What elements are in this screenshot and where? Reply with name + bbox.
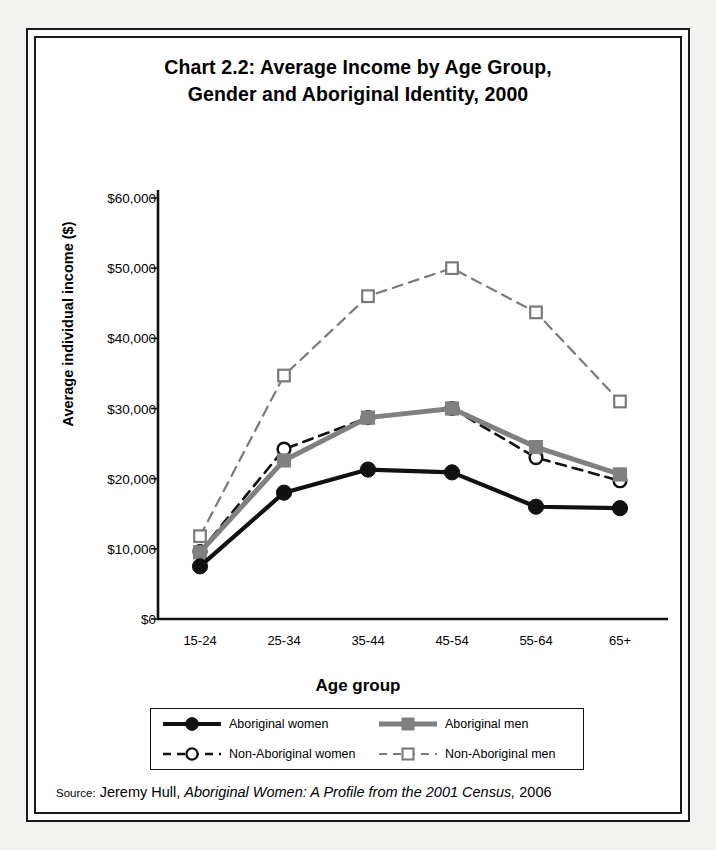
legend-item[interactable]: Non-Aboriginal men [367,745,583,763]
series-data-point [529,440,542,453]
x-axis-tick-label: 15-24 [183,633,216,648]
series-data-point [360,462,375,477]
x-axis-tick-label: 65+ [609,633,631,648]
legend-item[interactable]: Non-Aboriginal women [151,745,367,763]
series-data-point [613,468,626,481]
series-data-point [194,530,206,542]
series-data-point [614,396,626,408]
series-data-point [445,402,458,415]
legend-key-icon [377,745,439,763]
series-data-point [193,546,206,559]
chart-series [194,262,626,542]
series-data-point [528,499,543,514]
chart-title-line-1: Chart 2.2: Average Income by Age Group, [34,54,682,81]
source-label: Source: [56,787,96,799]
series-data-point [446,262,458,274]
x-axis-tick-label: 55-64 [519,633,552,648]
chart-title: Chart 2.2: Average Income by Age Group, … [34,54,682,108]
plot-area-wrapper: Average individual income ($) $60,000$50… [34,128,682,648]
legend-key-icon [377,715,439,733]
chart-figure: Chart 2.2: Average Income by Age Group, … [34,36,682,814]
source-author: Jeremy Hull, [100,784,181,800]
legend-label: Non-Aboriginal men [445,747,555,761]
chart-legend: Aboriginal womenAboriginal menNon-Aborig… [150,708,584,770]
legend-key-icon [161,715,223,733]
axis-lines [158,190,668,619]
series-data-point [612,501,627,516]
chart-title-line-2: Gender and Aboriginal Identity, 2000 [34,81,682,108]
series-data-point [530,307,542,319]
legend-key-icon [161,745,223,763]
x-axis-title: Age group [34,676,682,696]
x-axis-tick-label: 45-54 [435,633,468,648]
series-data-point [362,290,374,302]
legend-label: Non-Aboriginal women [229,747,355,761]
series-data-point [361,411,374,424]
legend-item[interactable]: Aboriginal men [367,715,583,733]
series-data-point [276,485,291,500]
legend-item[interactable]: Aboriginal women [151,715,367,733]
page-background: Chart 2.2: Average Income by Age Group, … [0,0,716,850]
series-data-point [277,454,290,467]
x-axis-tick-label: 25-34 [267,633,300,648]
x-axis-tick-label: 35-44 [351,633,384,648]
series-data-point [192,559,207,574]
chart-plot [34,128,682,648]
series-data-point [278,370,290,382]
series-line [200,409,620,553]
chart-series [192,462,627,574]
legend-label: Aboriginal men [445,717,528,731]
legend-label: Aboriginal women [229,717,328,731]
source-year: 2006 [519,784,551,800]
source-note: Source: Jeremy Hull, Aboriginal Women: A… [56,784,666,800]
series-data-point [444,465,459,480]
series-line [200,268,620,536]
source-publication-title: Aboriginal Women: A Profile from the 200… [184,784,515,800]
